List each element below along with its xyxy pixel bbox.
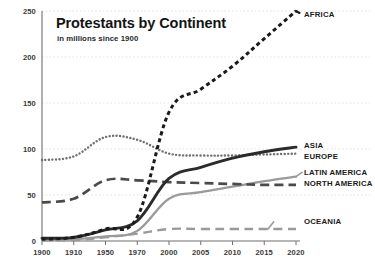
- y-tick-label: 200: [23, 53, 36, 62]
- y-tick-label: 50: [27, 191, 36, 200]
- y-tick-label: 100: [23, 145, 36, 154]
- series-label-asia: ASIA: [304, 141, 324, 150]
- x-tick-label: 1910: [65, 248, 83, 257]
- chart-container: 250200150100500 190019101950197020002005…: [0, 0, 375, 267]
- x-tick-label: 2015: [256, 248, 274, 257]
- x-tick-label: 1970: [129, 248, 147, 257]
- series-label-oceania: OCEANIA: [304, 217, 342, 226]
- y-tick-label: 150: [23, 99, 36, 108]
- x-tick-label: 1900: [33, 248, 51, 257]
- protestants-by-continent-line-chart: 250200150100500 190019101950197020002005…: [0, 0, 375, 267]
- y-tick-label: 250: [23, 7, 36, 16]
- x-tick-label: 2010: [224, 248, 242, 257]
- series-label-europe: EUROPE: [304, 152, 338, 161]
- series-label-africa: AFRICA: [304, 10, 335, 19]
- chart-subtitle: in millions since 1900: [57, 34, 139, 43]
- x-axis-tick-labels: 190019101950197020002005201020152020: [33, 248, 305, 257]
- x-tick-label: 2000: [160, 248, 178, 257]
- series-label-north-america: NORTH AMERICA: [304, 179, 373, 188]
- series-label-latin-america: LATIN AMERICA: [304, 168, 367, 177]
- x-tick-label: 2020: [287, 248, 305, 257]
- y-tick-label: 0: [32, 237, 36, 246]
- x-tick-label: 1950: [97, 248, 115, 257]
- chart-title: Protestants by Continent: [56, 15, 226, 31]
- x-tick-label: 2005: [192, 248, 210, 257]
